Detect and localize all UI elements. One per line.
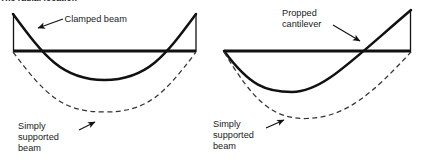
simply-supported-label-right-line2: supported [213, 130, 254, 140]
simply-supported-label-right-line3: beam [213, 141, 236, 151]
propped-cantilever-label-line2: cantilever [282, 19, 321, 29]
simply-supported-label-right-line1: Simply [213, 119, 241, 129]
propped-cantilever-leader-line [333, 25, 360, 41]
simply-supported-curve-left [13, 52, 196, 112]
simply-supported-leader-line-right [266, 120, 284, 128]
clamped-beam-deflection-curve [13, 14, 196, 80]
simply-supported-label-left-line2: supported [18, 132, 59, 142]
diagram-canvas: Clamped beam Simply supported beam Propp… [0, 0, 421, 160]
simply-supported-label-left-line1: Simply [18, 121, 46, 131]
beam-deflection-figure: The radial location Clamped beam [0, 0, 421, 160]
simply-supported-leader-line-left [79, 122, 95, 130]
clamped-beam-label: Clamped beam [65, 14, 128, 24]
propped-cantilever-label-line1: Propped [282, 8, 317, 18]
clamped-beam-leader-line [38, 19, 63, 28]
simply-supported-label-left-line3: beam [18, 143, 41, 153]
clamped-beam-diagram: Clamped beam Simply supported beam [13, 13, 196, 153]
propped-cantilever-diagram: Propped cantilever Simply supported beam [213, 8, 411, 152]
